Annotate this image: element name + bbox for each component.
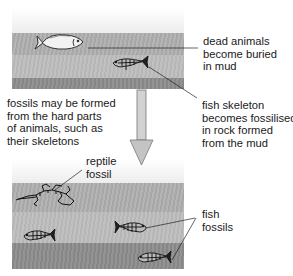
label-line: becomes fossilised — [202, 112, 293, 125]
label-line: fossils may be formed — [7, 97, 116, 110]
label-line: fossils — [202, 221, 233, 234]
fish-fossil-icon — [115, 221, 146, 233]
fish-fossil-icon — [24, 229, 55, 241]
label-line: of animals, such as — [7, 122, 116, 135]
label-fish-fossils: fish fossils — [202, 208, 233, 233]
label-line: fish — [202, 208, 233, 221]
label-line: their skeletons — [7, 135, 116, 148]
label-line: fish skeleton — [202, 99, 293, 112]
label-line: become buried — [203, 48, 277, 61]
label-line: in rock formed — [202, 124, 293, 137]
label-line: from the mud — [202, 137, 293, 150]
label-fish-skeleton: fish skeleton becomes fossilised in rock… — [202, 99, 293, 149]
down-arrow-icon — [130, 90, 153, 165]
dead-fish-icon — [35, 35, 83, 49]
fish-fossil-icon — [138, 251, 171, 263]
label-line: dead animals — [203, 35, 277, 48]
reptile-fossil-icon — [16, 184, 74, 206]
label-hard-parts: fossils may be formed from the hard part… — [7, 97, 116, 147]
label-line: fossil — [86, 168, 116, 181]
fish-skeleton-icon — [113, 56, 148, 70]
label-line: reptile — [86, 155, 116, 168]
label-line: in mud — [203, 60, 277, 73]
label-reptile-fossil: reptile fossil — [86, 155, 116, 180]
label-line: from the hard parts — [7, 110, 116, 123]
label-dead-animals: dead animals become buried in mud — [203, 35, 277, 73]
